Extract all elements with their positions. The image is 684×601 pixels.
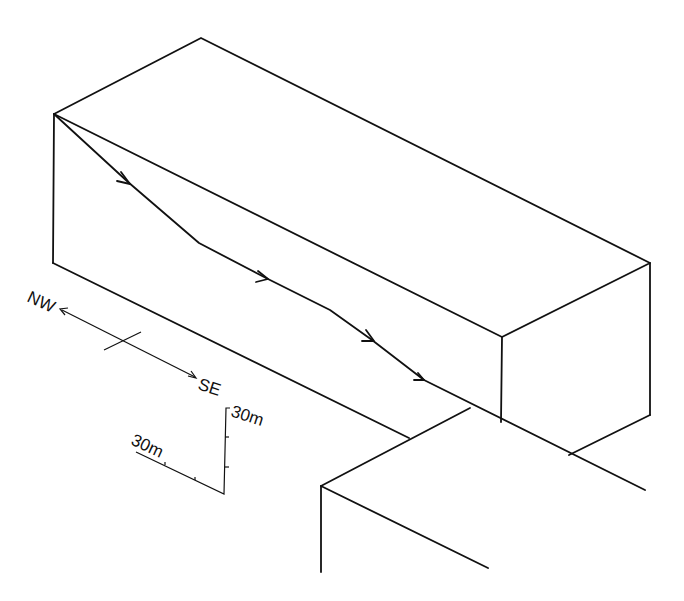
se-label: SE [196,375,223,400]
orientation-indicator: NW SE [24,287,223,399]
nw-label: NW [24,287,58,316]
diagram-svg: NW SE 30m 30m [0,0,684,601]
flow-path [54,114,424,380]
arrow-icon [362,330,374,341]
lower-block [321,408,488,572]
main-block [53,38,650,490]
block-diagram: NW SE 30m 30m [0,0,684,601]
vertical-scale-label: 30m [229,402,266,430]
scale-bar: 30m 30m [128,402,266,494]
